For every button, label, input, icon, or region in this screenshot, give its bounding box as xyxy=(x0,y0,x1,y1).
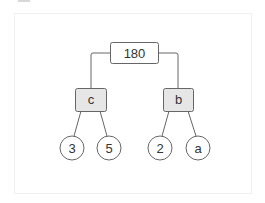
leaf-3-label: 3 xyxy=(68,141,75,156)
node-b: b xyxy=(164,89,194,112)
edge-root-b xyxy=(158,53,178,88)
leaf-a: a xyxy=(186,136,210,160)
leaf-a-label: a xyxy=(194,141,202,156)
edge-b-2 xyxy=(162,111,169,136)
node-root: 180 xyxy=(111,43,159,64)
leaf-5: 5 xyxy=(97,136,121,160)
leaf-3: 3 xyxy=(60,136,84,160)
edge-b-a xyxy=(188,111,196,136)
node-root-label: 180 xyxy=(124,46,146,61)
leaf-5-label: 5 xyxy=(105,141,112,156)
node-c: c xyxy=(76,89,107,112)
edge-root-c xyxy=(91,53,110,88)
node-c-label: c xyxy=(88,92,95,107)
tree-diagram: 180 c b 3 5 2 a xyxy=(0,0,265,203)
edge-c-5 xyxy=(100,111,107,136)
leaf-2: 2 xyxy=(148,136,172,160)
edge-c-3 xyxy=(74,111,81,136)
node-b-label: b xyxy=(175,92,182,107)
leaf-2-label: 2 xyxy=(156,141,163,156)
